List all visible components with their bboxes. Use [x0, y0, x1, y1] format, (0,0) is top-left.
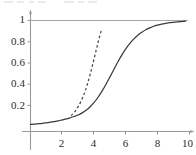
x-tick-label-6: 6: [117, 138, 134, 149]
y-tick-label-0.4: 0.4: [1, 78, 25, 89]
y-tick-label-1: 1: [4, 14, 25, 25]
y-tick-label-0.6: 0.6: [1, 57, 25, 68]
x-tick-label-8: 8: [149, 138, 166, 149]
x-tick-label-4: 4: [85, 138, 102, 149]
y-tick-label-0.2: 0.2: [1, 100, 25, 111]
x-tick-label-10: 10: [179, 138, 196, 149]
plot-area: [0, 0, 196, 155]
x-tick-label-2: 2: [53, 138, 70, 149]
chart-figure: 1 0.8 0.6 0.4 0.2 2 4 6 8 10: [0, 0, 196, 155]
curve-exponential-approximation: [71, 31, 101, 116]
y-tick-label-0.8: 0.8: [1, 36, 25, 47]
curve-logistic: [31, 21, 186, 124]
